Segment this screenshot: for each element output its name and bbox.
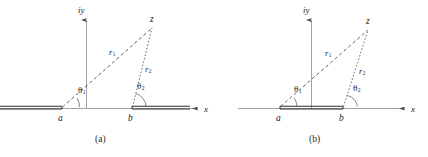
panel-a-point-b-label: b	[128, 114, 133, 124]
panel-b-theta2-subscript: 2	[357, 87, 360, 93]
panel-a-ray-r1	[63, 28, 153, 107]
panel-b-theta1-subscript: 1	[298, 88, 301, 94]
panel-b	[238, 20, 405, 109]
panel-b-ray-r1-subscript: 1	[328, 52, 331, 58]
panel-a-point-a-label: a	[58, 114, 63, 124]
panel-a-angle-theta2-arc	[136, 94, 147, 108]
panel-a-angle-theta1-label: θ1	[78, 86, 86, 96]
panel-a-angle-theta1-arc	[77, 98, 80, 107]
panel-a-cut-left	[0, 106, 62, 109]
panel-a-x-axis-label: x	[204, 105, 208, 114]
panel-b-point-z-label: z	[366, 17, 370, 27]
panel-b-ray-r1	[281, 30, 369, 107]
panel-a-cut-right	[132, 106, 190, 109]
panel-b-angle-theta2-arc	[348, 96, 358, 107]
panel-b-angle-theta1-arc	[294, 98, 297, 107]
panel-a-theta1-subscript: 1	[82, 89, 85, 95]
panel-b-angle-theta1-label: θ1	[294, 85, 302, 95]
panel-a-y-axis-label: iy	[78, 6, 85, 15]
panel-b-ray-r1-label: r1	[325, 49, 331, 58]
panel-a-angle-theta2-label: θ2	[137, 82, 145, 92]
panel-a-theta2-subscript: 2	[141, 85, 144, 91]
panel-a-ray-r2-subscript: 2	[148, 68, 151, 74]
panel-b-ray-r2-label: r2	[359, 67, 365, 76]
panel-a	[0, 20, 198, 109]
panel-a-ray-r1-label: r1	[109, 48, 115, 57]
figure-canvas	[0, 0, 428, 157]
panel-b-angle-theta2-label: θ2	[353, 84, 361, 94]
panel-b-y-axis-label: iy	[303, 6, 310, 15]
panel-b-point-b-label: b	[339, 114, 344, 124]
branch-cut-figure: iy x a b z r1 r2 θ1 θ2 (a) iy x a b z r1…	[0, 0, 428, 157]
panel-b-x-axis-label: x	[411, 105, 415, 114]
panel-b-point-a-label: a	[276, 114, 281, 124]
panel-a-caption: (a)	[95, 135, 106, 145]
panel-b-ray-r2-subscript: 2	[362, 70, 365, 76]
panel-a-ray-r2-label: r2	[145, 65, 151, 74]
panel-b-caption: (b)	[309, 135, 320, 145]
panel-a-point-z-label: z	[150, 15, 154, 25]
panel-a-ray-r1-subscript: 1	[112, 51, 115, 57]
